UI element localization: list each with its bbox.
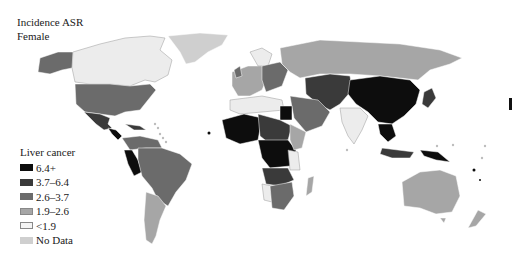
legend-item: 3.7–6.4 [20, 175, 75, 190]
legend-label: No Data [36, 233, 73, 248]
title-line-1: Incidence ASR [17, 15, 83, 29]
legend-label: 2.6–3.7 [36, 190, 69, 205]
map-title: Incidence ASR Female [17, 15, 83, 43]
region-tanzania [288, 150, 300, 170]
region-australia [402, 170, 460, 214]
region-central-america [108, 128, 122, 140]
legend-swatch-1-9-to-2-6 [20, 208, 33, 215]
legend-label: 6.4+ [36, 161, 56, 176]
region-united-states [75, 84, 156, 116]
region-southeast-asia [378, 124, 396, 142]
region-egypt [280, 106, 292, 120]
legend-item: 2.6–3.7 [20, 190, 75, 205]
legend-item: <1.9 [20, 219, 75, 234]
legend: Liver cancer 6.4+ 3.7–6.4 2.6–3.7 1.9–2.… [20, 145, 75, 248]
region-north-africa [230, 96, 284, 114]
region-west-africa [222, 114, 262, 144]
region-madagascar [306, 176, 314, 196]
region-indonesia [380, 148, 414, 158]
region-india [340, 108, 368, 144]
region-russia [280, 40, 462, 80]
legend-item: 1.9–2.6 [20, 204, 75, 219]
region-papua-new-guinea [420, 150, 450, 162]
legend-label: <1.9 [36, 219, 56, 234]
legend-title: Liver cancer [20, 145, 75, 160]
legend-swatch-2-6-to-3-7 [20, 193, 33, 200]
region-canada [72, 36, 172, 86]
region-scandinavia [250, 48, 272, 66]
legend-item: No Data [20, 233, 75, 248]
region-japan [422, 88, 436, 108]
legend-swatch-no-data [20, 237, 33, 244]
region-alaska [38, 52, 73, 74]
legend-label: 1.9–2.6 [36, 204, 69, 219]
legend-swatch-under-1-9 [20, 222, 33, 229]
region-new-zealand [468, 210, 486, 228]
region-southern-africa [270, 182, 294, 210]
region-tasmania [440, 218, 446, 223]
region-europe-east [262, 62, 288, 92]
title-line-2: Female [17, 29, 83, 43]
legend-item: 6.4+ [20, 161, 75, 176]
region-caribbean [125, 124, 146, 130]
legend-label: 3.7–6.4 [36, 175, 69, 190]
legend-swatch-3-7-to-6-4 [20, 179, 33, 186]
region-greenland [168, 33, 228, 64]
legend-swatch-6-4-plus [20, 164, 33, 171]
